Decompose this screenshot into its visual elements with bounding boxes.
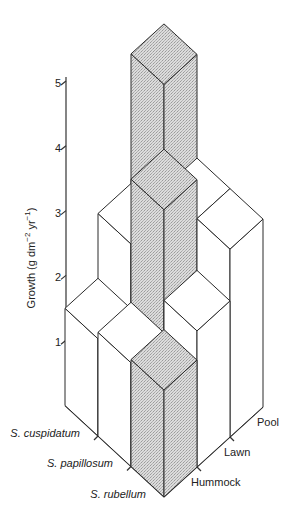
y-tick-mark: [61, 211, 66, 215]
bar-s-rubellumhummock: [131, 330, 197, 497]
species-label: S. cuspidatum: [10, 427, 80, 439]
y-tick-mark: [61, 81, 66, 85]
y-tick-mark: [61, 146, 66, 150]
habitat-tick: [230, 437, 234, 441]
y-tick-label: 2: [55, 271, 61, 283]
bar-right-face: [230, 219, 263, 437]
y-tick-mark: [61, 275, 66, 279]
habitat-label: Pool: [257, 416, 279, 428]
y-axis: 12345: [55, 77, 66, 406]
y-tick-label: 5: [55, 77, 61, 89]
species-label: S. rubellum: [90, 488, 146, 500]
bars: [65, 24, 263, 497]
species-label: S. papillosum: [47, 457, 113, 469]
y-tick-label: 1: [55, 336, 61, 348]
habitat-label: Lawn: [224, 446, 250, 458]
y-axis-title: Growth (g dm−2 yr−1): [23, 208, 37, 309]
habitat-label: Hummock: [191, 476, 241, 488]
y-tick-label: 3: [55, 207, 61, 219]
habitat-tick: [197, 467, 201, 471]
species-tick: [127, 467, 131, 471]
species-tick: [94, 436, 98, 440]
y-tick-label: 4: [55, 142, 61, 154]
bar-chart-3d: 12345 Growth (g dm−2 yr−1) S. cuspidatum…: [0, 0, 286, 515]
